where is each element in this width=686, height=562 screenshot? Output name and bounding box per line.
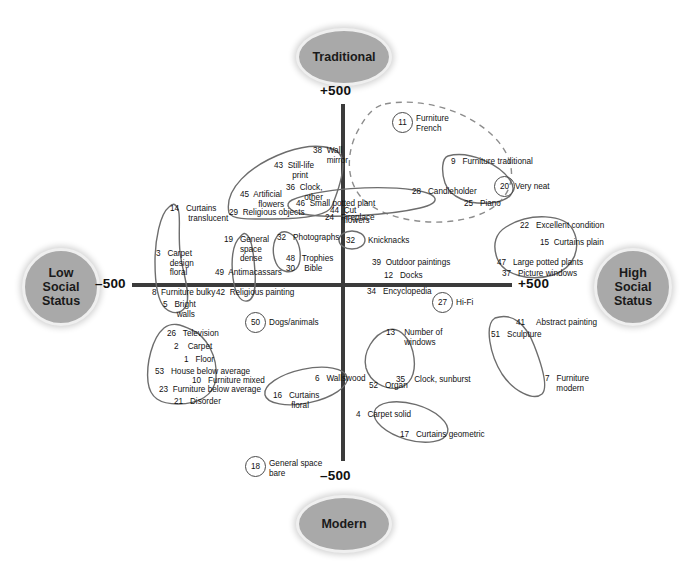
point-13-number-of-windows[interactable]: 13 Number of windows [386,328,442,347]
point-29-religious-objects[interactable]: 29 Religious objects [229,208,305,218]
point-12-docks[interactable]: 12 Docks [384,271,423,281]
point-15-curtains-plain[interactable]: 15 Curtains plain [540,238,604,248]
point-43-still-life-print[interactable]: 43 Still-life print [274,161,314,180]
point-48-trophies[interactable]: 48 Trophies [286,254,333,264]
point-28-candleholder[interactable]: 28 Candleholder [412,187,477,197]
point-50-dogs-animals-circle[interactable]: 50 [245,312,266,333]
pole-high-line2: Social [614,280,652,294]
point-25-piano[interactable]: 25 Piano [464,199,501,209]
point-51-sculpture[interactable]: 51 Sculpture [491,330,542,340]
point-26-television[interactable]: 26 Television [167,329,219,339]
pole-high-line3: Status [614,294,652,308]
point-1-floor[interactable]: 1 Floor [184,355,214,365]
point-20-very-neat-circle[interactable]: 20 [494,176,515,197]
pole-traditional-label: Traditional [312,50,375,64]
axis-value-top: +500 [320,83,351,98]
point-14-curtains-translucent[interactable]: 14 Curtains translucent [170,204,228,223]
point-11-furniture-french-circle[interactable]: 11 [392,112,413,133]
point-11-furniture-french-label[interactable]: Furniture French [416,114,449,133]
point-18-general-space-bare-circle[interactable]: 18 [245,456,266,477]
point-41-abstract-painting[interactable]: 41 Abstract painting [516,318,597,328]
point-49-antimacassars[interactable]: 49 Antimacassars [215,268,282,278]
point-23-furniture-below-average[interactable]: 23 Furniture below average [159,385,261,395]
point-50-dogs-animals-label[interactable]: Dogs/animals [269,318,319,328]
axis-value-left: –500 [95,276,126,291]
axis-value-bottom: –500 [320,468,351,483]
point-27-hifi-circle[interactable]: 27 [432,292,453,313]
pole-high-social-status: High Social Status [594,248,672,326]
point-52-organ[interactable]: 52 Organ [369,381,408,391]
point-30-bible[interactable]: 30 Bible [286,264,322,274]
pole-low-line2: Social [42,280,80,294]
point-19-general-space-dense[interactable]: 19 General space dense [224,235,269,264]
perceptual-map-canvas: Traditional Modern Low Social Status Hig… [0,0,686,562]
point-45-artificial-flowers[interactable]: 45 Artificial flowers [240,190,284,209]
pole-low-social-status: Low Social Status [22,248,100,326]
point-32-knicknacks-label[interactable]: Knicknacks [368,236,409,246]
point-5-bright-walls[interactable]: 5 Bright walls [163,300,196,319]
point-20-very-neat-label[interactable]: Very neat [515,182,550,192]
pole-traditional: Traditional [296,28,392,86]
point-18-general-space-bare-label[interactable]: General space bare [269,459,322,478]
point-34-encyclopedia[interactable]: 34 Encyclopedia [367,287,432,297]
cluster-modern-art [489,316,544,396]
point-4-carpet-solid[interactable]: 4 Carpet solid [356,410,411,420]
point-32-photographs[interactable]: 32 Photographs [277,233,339,243]
point-47-large-potted-plants[interactable]: 47 Large potted plants [497,258,583,268]
pole-modern-label: Modern [321,517,366,531]
pole-modern: Modern [296,495,392,553]
pole-low-line1: Low [42,266,80,280]
point-8-furniture-bulky[interactable]: 8 Furniture bulky [152,288,215,298]
point-22-excellent-condition[interactable]: 22 Excellent condition [520,221,604,231]
point-21-disorder[interactable]: 21 Disorder [174,397,221,407]
point-16-curtains-floral[interactable]: 16 Curtains floral [273,391,319,410]
point-38-wall-mirror[interactable]: 38 Wall mirror [313,146,348,165]
point-7-furniture-modern[interactable]: 7 Furniture modern [545,374,589,393]
cluster-carpet-solid [370,394,453,450]
point-46-small-potted-plant[interactable]: 46 Small potted plant [296,199,375,209]
point-37-picture-windows[interactable]: 37 Picture windows [502,269,577,279]
horizontal-axis [132,283,512,287]
point-9-furniture-traditional[interactable]: 9 Furniture traditional [451,157,533,167]
point-3-carpet-design-floral[interactable]: 3 Carpet design floral [156,249,194,278]
point-6-wallswood[interactable]: 6 Wallswood [315,374,366,384]
point-27-hifi-label[interactable]: Hi-Fi [456,298,473,308]
point-42-religious-painting[interactable]: 42 Religious painting [216,288,294,298]
point-24-fireplace[interactable]: 24 Fireplace [325,213,375,223]
point-17-curtains-geometric[interactable]: 17 Curtains geometric [400,430,485,440]
point-39-outdoor-paintings[interactable]: 39 Outdoor paintings [372,258,450,268]
pole-low-line3: Status [42,294,80,308]
point-32-knicknacks-number[interactable]: 32 [346,236,355,246]
point-2-carpet[interactable]: 2 Carpet [174,342,212,352]
pole-high-line1: High [614,266,652,280]
